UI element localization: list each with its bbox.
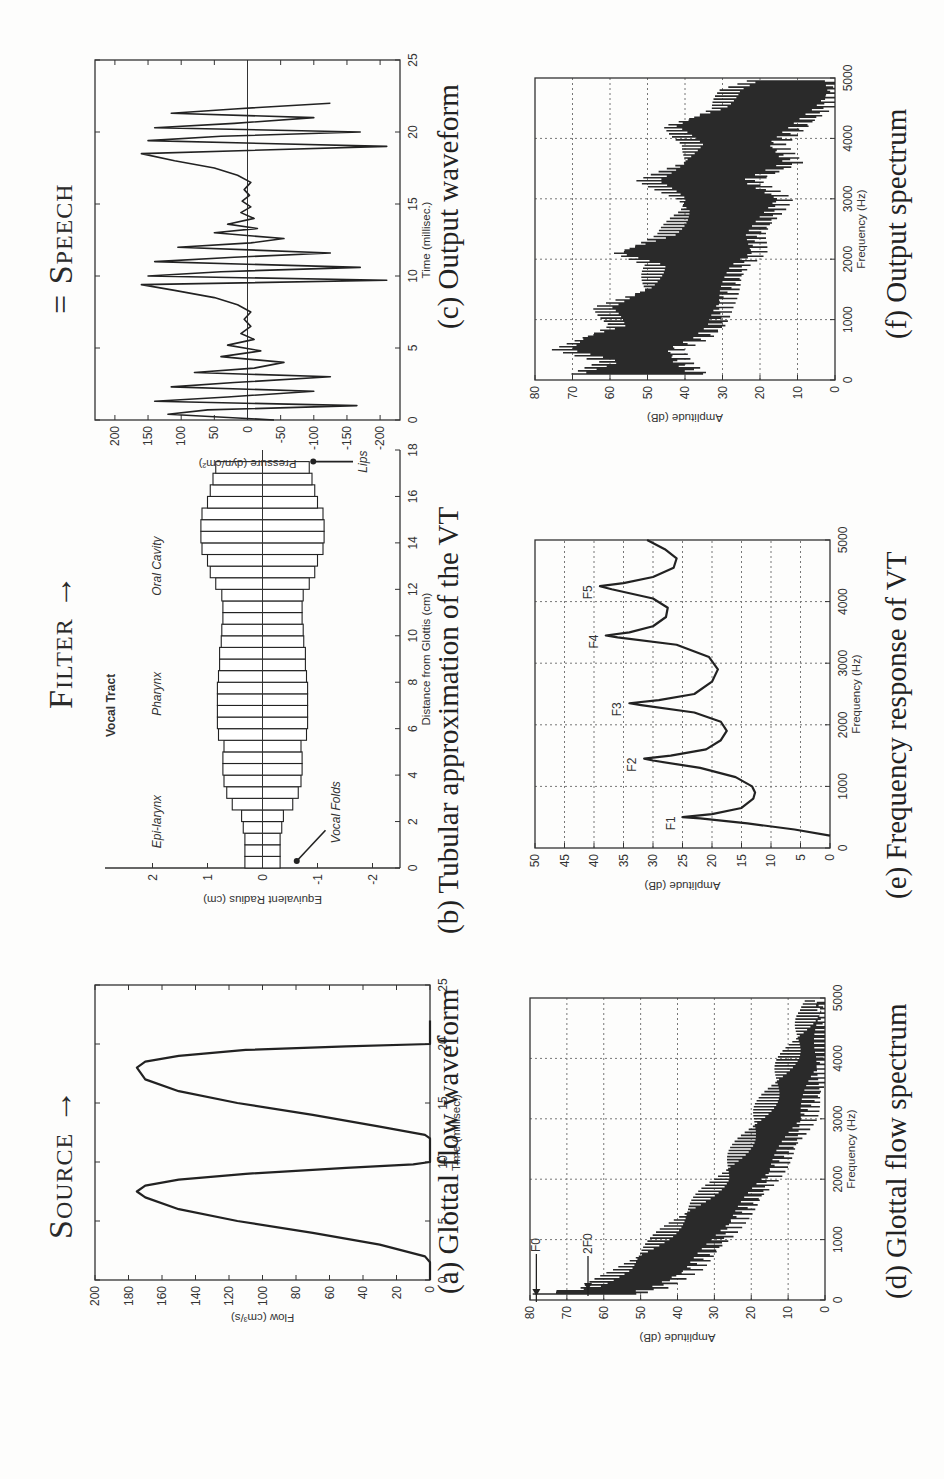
y-tick-label: 70 xyxy=(566,386,580,400)
x-tick-label: 4000 xyxy=(841,125,855,152)
x-tick-label: 1000 xyxy=(841,306,855,333)
chart-f-output-spectrum: 01000200030004000500001020304050607080Fr… xyxy=(0,0,944,1479)
y-tick-label: 60 xyxy=(603,386,617,400)
caption-f: (f) Output spectrum xyxy=(880,109,913,339)
y-tick-label: 10 xyxy=(791,386,805,400)
y-axis-label: Amplitude (dB) xyxy=(647,412,723,424)
x-tick-label: 5000 xyxy=(841,64,855,91)
y-tick-label: 20 xyxy=(753,386,767,400)
y-tick-label: 0 xyxy=(828,386,842,393)
caption-e: (e) Frequency response of VT xyxy=(880,552,913,899)
y-tick-label: 40 xyxy=(678,386,692,400)
spectrum-lines xyxy=(552,81,835,374)
x-tick-label: 0 xyxy=(841,376,855,383)
figure-page: Source → Filter → = Speech 0510152025020… xyxy=(0,0,944,1479)
caption-b: (b) Tubular approximation of the VT xyxy=(432,507,465,934)
chart-f-plot: 01000200030004000500001020304050607080Fr… xyxy=(528,64,867,424)
x-axis-label: Frequency (Hz) xyxy=(855,189,867,268)
y-tick-label: 30 xyxy=(716,386,730,400)
caption-a: (a) Glottal flow waveform xyxy=(432,989,465,1294)
x-tick-label: 2000 xyxy=(841,246,855,273)
y-tick-label: 50 xyxy=(641,386,655,400)
y-tick-label: 80 xyxy=(528,386,542,400)
caption-c: (c) Output waveform xyxy=(432,84,465,329)
x-tick-label: 3000 xyxy=(841,185,855,212)
caption-d: (d) Glottal flow spectrum xyxy=(880,1003,913,1299)
